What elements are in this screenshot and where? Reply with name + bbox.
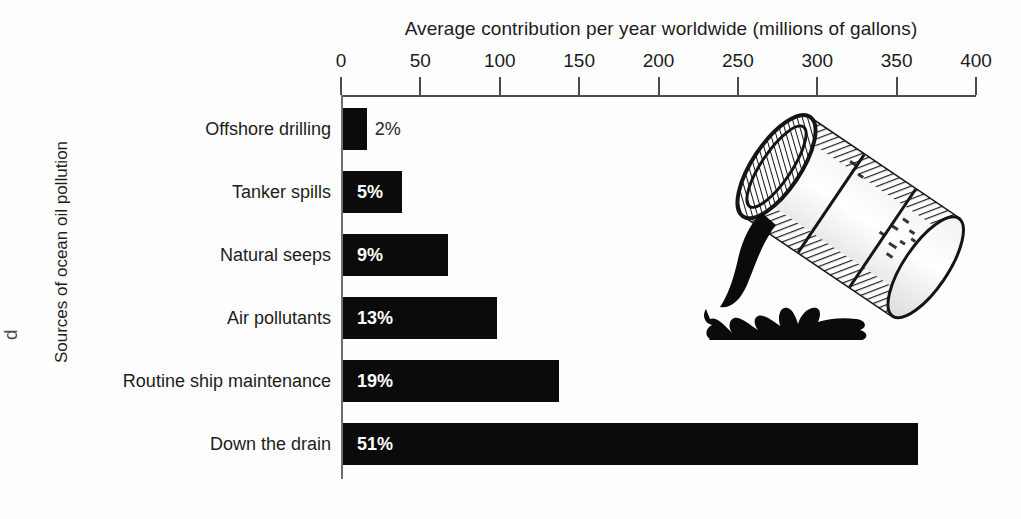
y-axis-line [341,95,343,479]
x-axis-tick-label: 250 [708,50,768,72]
category-label: Down the drain [210,434,331,455]
x-axis-tick-label: 350 [867,50,927,72]
x-axis-tick [896,77,898,95]
x-axis-tick-label: 0 [311,50,371,72]
bar-value-label: 13% [357,308,393,329]
chart-title: Average contribution per year worldwide … [341,18,981,40]
x-axis-tick [499,77,501,95]
bar-row: Routine ship maintenance19% [0,360,1021,402]
bar-value-label: 5% [357,182,383,203]
x-axis-tick-label: 200 [629,50,689,72]
bar-value-label: 2% [375,119,401,140]
bar-row: Down the drain51% [0,423,1021,465]
x-axis-tick-label: 50 [390,50,450,72]
chart-figure: Average contribution per year worldwide … [0,0,1021,519]
category-label: Natural seeps [220,245,331,266]
bar[interactable]: 9% [343,234,448,276]
x-axis-tick-label: 100 [470,50,530,72]
bar[interactable]: 13% [343,297,497,339]
x-axis-tick-label: 150 [549,50,609,72]
x-axis-tick [658,77,660,95]
bar-value-label: 51% [357,434,393,455]
x-axis-tick [340,77,342,95]
bar[interactable] [343,108,367,150]
category-label: Tanker spills [232,182,331,203]
bar[interactable]: 5% [343,171,402,213]
x-axis-tick [975,77,977,95]
category-label: Air pollutants [227,308,331,329]
x-axis-tick [578,77,580,95]
x-axis-tick [419,77,421,95]
x-axis-tick [737,77,739,95]
x-axis-tick-label: 400 [946,50,1006,72]
bar-value-label: 9% [357,245,383,266]
x-axis-tick [816,77,818,95]
category-label: Routine ship maintenance [123,371,331,392]
tipped-oil-drum-pouring-icon [700,95,1000,340]
category-label: Offshore drilling [205,119,331,140]
x-axis-tick-label: 300 [787,50,847,72]
bar[interactable]: 19% [343,360,559,402]
bar[interactable]: 51% [343,423,918,465]
bar-value-label: 19% [357,371,393,392]
